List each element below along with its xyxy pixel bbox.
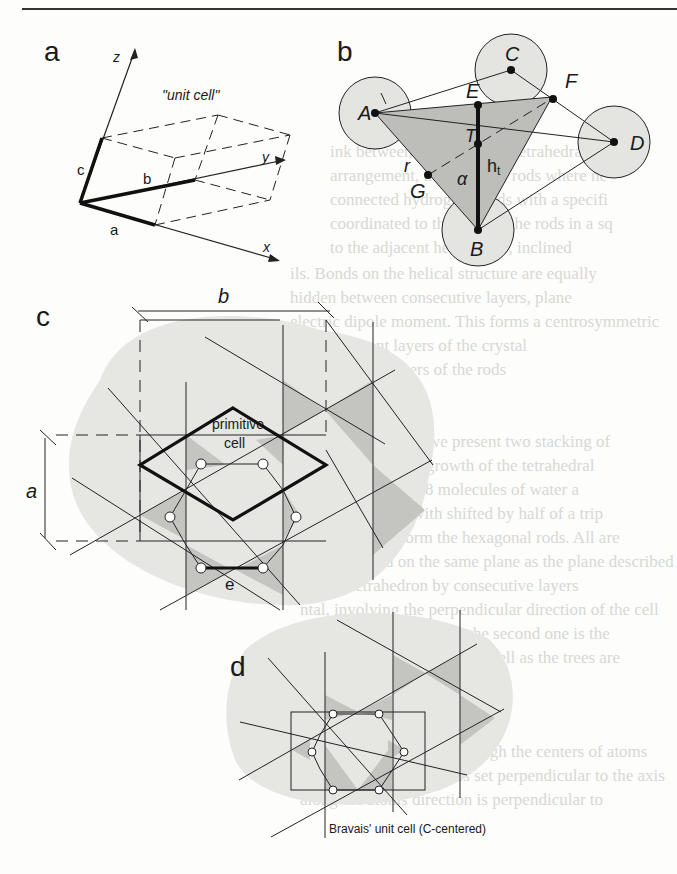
axis-x-label: x xyxy=(262,239,271,255)
point-F-label: F xyxy=(565,70,579,92)
unit-cell-title: "unit cell" xyxy=(162,87,220,103)
bravais-caption: Bravais' unit cell (C-centered) xyxy=(329,822,486,836)
dimension-a-label: a xyxy=(26,480,37,502)
point-A-label: A xyxy=(357,102,371,124)
panel-a: a z y x c b a "unit cell" xyxy=(44,36,290,262)
vector-a-label: a xyxy=(110,221,119,238)
panel-label-c: c xyxy=(36,301,50,332)
panel-b: b A B C D E F G T r α xyxy=(337,34,650,266)
point-C-label: C xyxy=(505,43,520,65)
point-D-label: D xyxy=(630,132,644,154)
dimension-b-label: b xyxy=(218,285,229,307)
panel-label-a: a xyxy=(44,36,60,67)
primitive-cell-label-2: cell xyxy=(224,435,245,451)
point-B-label: B xyxy=(470,238,483,260)
panel-label-b: b xyxy=(337,36,353,67)
point-G-label: G xyxy=(410,180,426,202)
edge-e-label: e xyxy=(225,575,234,594)
figure-canvas: a z y x c b a "unit cell" xyxy=(0,0,677,874)
axis-y-label: y xyxy=(261,149,270,165)
axis-z-label: z xyxy=(112,49,120,65)
vector-c-label: c xyxy=(77,161,85,178)
radius-r-label: r xyxy=(404,156,411,176)
vector-b-label: b xyxy=(143,170,151,187)
panel-label-d: d xyxy=(230,651,246,682)
angle-alpha-label: α xyxy=(457,169,468,189)
primitive-cell-label-1: primitive xyxy=(212,416,264,432)
point-E-label: E xyxy=(466,80,480,102)
